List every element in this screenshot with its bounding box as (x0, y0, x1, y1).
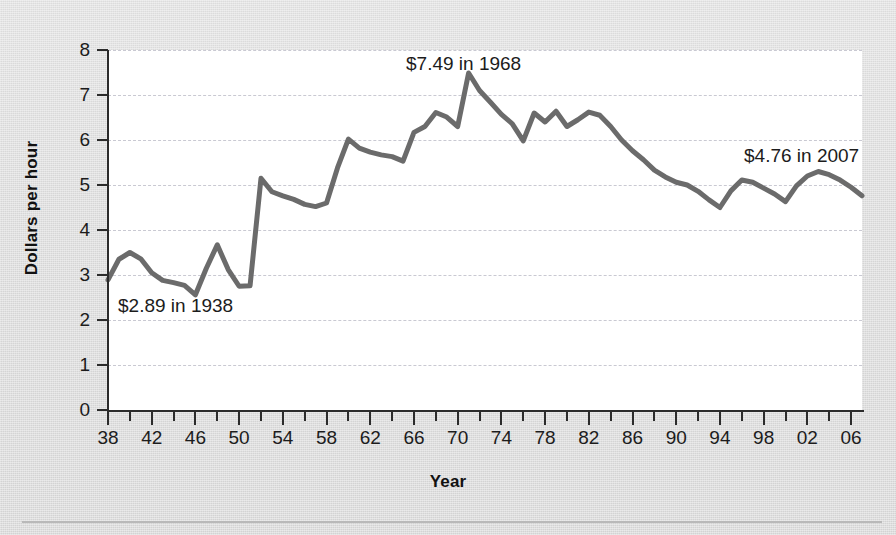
y-axis-tick (97, 409, 108, 411)
x-axis-tick (479, 412, 481, 421)
x-axis-tick (347, 412, 349, 421)
x-axis-tick (675, 412, 677, 425)
y-axis-tick-label: 3 (64, 265, 90, 284)
annotation-2007: $4.76 in 2007 (744, 146, 859, 165)
x-axis-tick-label: 98 (744, 428, 784, 447)
y-axis-tick-label: 8 (64, 40, 90, 59)
plot-area (108, 50, 862, 410)
y-axis-tick (97, 319, 108, 321)
x-axis-tick (326, 412, 328, 425)
x-axis-tick-label: 74 (481, 428, 521, 447)
y-axis-tick (97, 229, 108, 231)
line-series-svg (108, 50, 862, 410)
annotation-1938: $2.89 in 1938 (118, 296, 233, 315)
y-axis-tick (97, 184, 108, 186)
x-axis-tick (391, 412, 393, 421)
x-axis-tick-label: 58 (307, 428, 347, 447)
x-axis-tick-label: 46 (175, 428, 215, 447)
x-axis-tick (369, 412, 371, 425)
y-axis-tick (97, 364, 108, 366)
x-axis-tick (194, 412, 196, 425)
x-axis-tick (741, 412, 743, 421)
x-axis-tick (697, 412, 699, 421)
x-axis-tick (129, 412, 131, 421)
y-axis-tick (97, 274, 108, 276)
x-axis-tick (435, 412, 437, 421)
y-axis-tick (97, 139, 108, 141)
x-axis-tick-label: 82 (569, 428, 609, 447)
x-axis-tick (238, 412, 240, 425)
x-axis-title: Year (0, 472, 896, 492)
x-axis-tick (151, 412, 153, 425)
y-axis-tick-label: 1 (64, 355, 90, 374)
x-axis-tick (588, 412, 590, 425)
x-axis-tick-label: 78 (525, 428, 565, 447)
x-axis-tick (610, 412, 612, 421)
x-axis-tick-label: 42 (132, 428, 172, 447)
y-axis-tick-label: 6 (64, 130, 90, 149)
x-axis-tick (763, 412, 765, 425)
x-axis-tick (260, 412, 262, 421)
x-axis-tick (522, 412, 524, 421)
x-axis-tick-label: 06 (831, 428, 871, 447)
y-axis-title: Dollars per hour (22, 138, 42, 278)
x-axis-tick (304, 412, 306, 421)
x-axis-line (107, 410, 864, 412)
y-axis-tick (97, 94, 108, 96)
x-axis-tick (500, 412, 502, 425)
x-axis-tick-label: 02 (787, 428, 827, 447)
x-axis-tick-label: 50 (219, 428, 259, 447)
x-axis-tick (282, 412, 284, 425)
x-axis-tick (719, 412, 721, 425)
x-axis-tick (850, 412, 852, 425)
x-axis-tick (828, 412, 830, 421)
x-axis-tick-label: 90 (656, 428, 696, 447)
x-axis-tick-label: 70 (438, 428, 478, 447)
y-axis-tick-label: 0 (64, 400, 90, 419)
x-axis-tick-label: 54 (263, 428, 303, 447)
x-axis-tick-label: 66 (394, 428, 434, 447)
x-axis-tick-label: 86 (613, 428, 653, 447)
annotation-1968: $7.49 in 1968 (406, 54, 521, 73)
x-axis-tick (216, 412, 218, 421)
y-axis-tick-label: 4 (64, 220, 90, 239)
minimum-wage-line (108, 73, 862, 295)
x-axis-tick (653, 412, 655, 421)
x-axis-tick (413, 412, 415, 425)
x-axis-tick (107, 412, 109, 425)
x-axis-tick (566, 412, 568, 421)
y-axis-tick (97, 49, 108, 51)
y-axis-line (107, 50, 109, 412)
y-axis-tick-label: 5 (64, 175, 90, 194)
x-axis-tick (544, 412, 546, 425)
footer-divider (22, 521, 882, 523)
x-axis-tick (785, 412, 787, 421)
x-axis-tick-label: 94 (700, 428, 740, 447)
x-axis-tick (457, 412, 459, 425)
x-axis-tick (173, 412, 175, 421)
x-axis-tick-label: 62 (350, 428, 390, 447)
y-axis-tick-label: 7 (64, 85, 90, 104)
x-axis-tick-label: 38 (88, 428, 128, 447)
y-axis-tick-label: 2 (64, 310, 90, 329)
chart-page: 012345678 384246505458626670747882869094… (0, 0, 896, 535)
x-axis-tick (806, 412, 808, 425)
x-axis-tick (632, 412, 634, 425)
